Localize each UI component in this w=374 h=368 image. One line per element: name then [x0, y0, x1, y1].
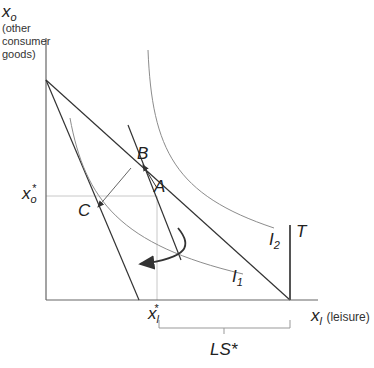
curve-I2-label: I2 — [269, 230, 280, 251]
x-axis-subscript: l — [320, 315, 322, 327]
y-axis-symbol: x — [2, 2, 11, 21]
x-o-star-subscript: o — [31, 193, 37, 205]
y-axis-desc-line: goods) — [2, 48, 50, 61]
x-axis-label: xl (leisure) — [311, 306, 370, 327]
x-axis-symbol: x — [311, 306, 320, 325]
point-A-label: A — [154, 177, 165, 197]
x-l-star-label: xl* — [148, 302, 163, 325]
y-axis-description: (other consumer goods) — [2, 22, 50, 61]
arrow-to-C — [98, 168, 131, 207]
time-endowment-label: T — [296, 222, 306, 242]
point-B-label: B — [137, 144, 148, 164]
curve-I1-label: I1 — [232, 267, 243, 288]
x-o-star-sup: * — [32, 182, 36, 194]
x-axis-description: (leisure) — [326, 310, 369, 324]
budget-line-compensated — [46, 80, 139, 300]
x-l-star-sup: * — [154, 302, 158, 314]
curve-I2-subscript: 2 — [274, 239, 280, 251]
point-C-label: C — [78, 201, 90, 221]
arrow-substitution-curve — [140, 228, 185, 264]
budget-line-original — [46, 80, 290, 300]
x-o-star-symbol: x — [22, 184, 31, 203]
y-axis-label: xo — [2, 2, 17, 23]
labor-supply-diagram: xo (other consumer goods) xo* B A C I2 I… — [0, 0, 374, 368]
curve-I1-subscript: 1 — [237, 276, 243, 288]
y-axis-desc-line: consumer — [2, 35, 50, 48]
indifference-curve-I2 — [148, 50, 274, 228]
y-axis-desc-line: (other — [2, 22, 50, 35]
labor-supply-label: LS* — [210, 340, 237, 360]
x-o-star-label: xo* — [22, 182, 41, 205]
x-l-star-subscript: l — [157, 313, 159, 325]
ls-bracket — [159, 320, 290, 334]
